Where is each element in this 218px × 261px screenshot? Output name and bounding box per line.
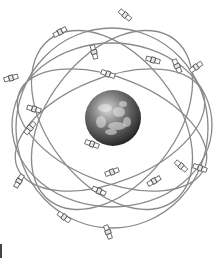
earth-landmass [123, 117, 131, 127]
earth-landmass [96, 116, 106, 128]
earth-landmass [119, 101, 127, 107]
satellite-icon [147, 175, 162, 187]
earth-landmass [105, 129, 117, 135]
satellite-icon [118, 8, 132, 21]
satellite-icon [13, 174, 25, 189]
satellite-icon [174, 159, 188, 172]
satellite-icon [4, 73, 19, 82]
gps-constellation-illustration [0, 0, 218, 261]
satellite-icon [104, 167, 119, 177]
satellite-icon [27, 104, 42, 113]
edge-mark [0, 244, 2, 258]
earth-landmass [113, 107, 125, 117]
earth-globe [85, 90, 141, 146]
satellite-icon [103, 224, 113, 239]
earth-landmass [98, 104, 112, 112]
earth-sphere [85, 90, 141, 146]
satellite-icon [53, 26, 68, 38]
